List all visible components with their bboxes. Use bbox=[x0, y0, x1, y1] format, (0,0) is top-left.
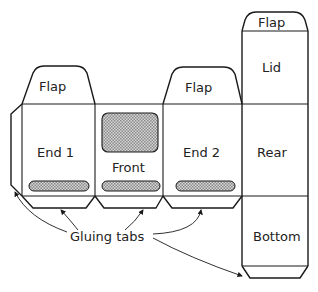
glue-strip-front bbox=[102, 181, 160, 191]
gluing-tab-left-side bbox=[11, 104, 22, 196]
end1-label: End 1 bbox=[37, 145, 74, 160]
glue-strip-end1 bbox=[29, 181, 89, 191]
leader-arrow-end1-tab bbox=[61, 210, 78, 230]
bottom-label: Bottom bbox=[253, 229, 301, 244]
rear-label: Rear bbox=[257, 145, 287, 160]
leader-arrow-bottom-tab bbox=[153, 238, 242, 276]
gluing-tabs-label: Gluing tabs bbox=[70, 229, 144, 244]
end2-flap-label: Flap bbox=[185, 80, 212, 95]
end1-flap-label: Flap bbox=[39, 79, 66, 94]
gluing-tab-front bbox=[95, 196, 163, 208]
glue-strip-end2 bbox=[176, 181, 235, 191]
lid-label: Lid bbox=[262, 60, 281, 75]
front-label: Front bbox=[112, 160, 145, 175]
lid-flap-label: Flap bbox=[258, 15, 285, 30]
leader-arrow-left-tab bbox=[15, 192, 67, 232]
end2-label: End 2 bbox=[183, 145, 220, 160]
gluing-tab-bottom-panel bbox=[242, 266, 308, 278]
box-net-diagram: Flap Flap Flap Lid End 1 Front End 2 Rea… bbox=[0, 0, 318, 292]
front-window bbox=[102, 113, 158, 152]
leader-arrow-end2-tab bbox=[153, 210, 201, 234]
gluing-tab-end1 bbox=[22, 196, 95, 208]
gluing-tab-end2 bbox=[163, 196, 242, 208]
leader-arrow-front-tab bbox=[125, 210, 143, 230]
